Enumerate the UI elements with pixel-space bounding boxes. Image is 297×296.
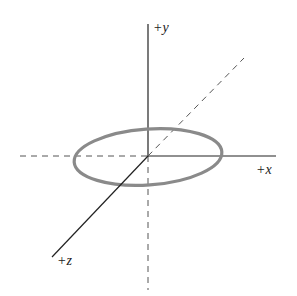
diagram: +y +x +z [0,0,297,296]
z-axis-negative-dashed [148,58,244,156]
z-axis-label: +z [57,253,72,268]
y-axis-label: +y [153,20,169,35]
x-axis-label: +x [256,162,272,177]
axes-diagram: +y +x +z [0,0,297,296]
z-axis [52,156,148,257]
